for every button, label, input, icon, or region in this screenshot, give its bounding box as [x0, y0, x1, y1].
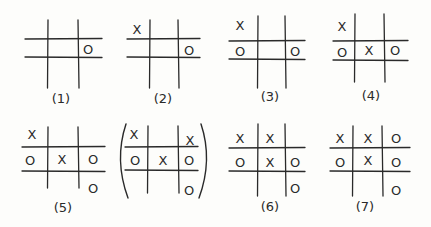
x-mark: X: [338, 19, 347, 34]
o-mark: O: [290, 44, 300, 59]
x-mark: X: [159, 153, 168, 168]
o-mark: O: [25, 153, 35, 168]
board-2: XO(2): [127, 20, 200, 106]
x-mark: X: [364, 131, 373, 146]
grid-line-vertical: [78, 127, 79, 188]
o-mark: O: [290, 181, 300, 196]
grid-line-vertical: [355, 14, 356, 82]
board-label: (2): [154, 91, 172, 106]
grid-line-vertical: [48, 127, 49, 188]
grid-line-horizontal: [333, 41, 408, 42]
grid-line-horizontal: [229, 148, 305, 149]
grid-line-vertical: [384, 14, 385, 82]
o-mark: O: [184, 153, 194, 168]
o-mark: O: [235, 155, 245, 170]
board-5: XOXOO(5): [22, 127, 105, 215]
grid-line-vertical: [258, 124, 259, 196]
x-mark: X: [28, 127, 37, 142]
grid-line-horizontal: [229, 59, 305, 60]
grid-line-vertical: [150, 20, 151, 88]
grid-line-vertical: [178, 126, 179, 193]
x-mark: X: [336, 131, 345, 146]
o-mark: O: [88, 152, 98, 167]
grid-line-horizontal: [229, 41, 305, 42]
grid-line-horizontal: [25, 57, 102, 58]
grid-line-vertical: [48, 20, 49, 88]
left-parenthesis: [120, 124, 128, 198]
grid-line-vertical: [78, 20, 79, 88]
x-mark: X: [364, 153, 373, 168]
grid-line-vertical: [148, 126, 149, 193]
board-label: (1): [52, 91, 70, 106]
x-mark: X: [266, 131, 275, 146]
grid-line-vertical: [258, 16, 259, 88]
board-1: O(1): [25, 20, 102, 106]
o-mark: O: [184, 43, 194, 58]
grid-line-horizontal: [333, 60, 408, 61]
o-mark: O: [184, 183, 194, 198]
board-label: (4): [362, 88, 380, 103]
o-mark: O: [337, 45, 347, 60]
grid-line-horizontal: [229, 171, 305, 172]
grid-line-vertical: [178, 20, 179, 88]
board-label: (5): [54, 200, 72, 215]
x-mark: X: [266, 155, 275, 170]
x-mark: X: [236, 131, 245, 146]
o-mark: O: [391, 155, 401, 170]
grid-line-horizontal: [125, 170, 198, 171]
grid-line-vertical: [353, 126, 354, 196]
o-mark: O: [88, 181, 98, 196]
right-parenthesis: [199, 124, 207, 198]
grid-line-vertical: [382, 126, 383, 196]
tic-tac-toe-diagram: O(1)XO(2)XOO(3)XOXO(4)XOXOO(5)XXOXOOXXOX…: [0, 0, 431, 227]
grid-line-horizontal: [330, 171, 410, 172]
o-mark: O: [391, 183, 401, 198]
board-label: (3): [261, 89, 279, 104]
board-6: XXOXOO(6): [229, 124, 305, 214]
o-mark: O: [391, 131, 401, 146]
o-mark: O: [390, 43, 400, 58]
o-mark: O: [83, 42, 93, 57]
grid-line-horizontal: [22, 171, 105, 172]
o-mark: O: [290, 155, 300, 170]
board-label: (6): [261, 199, 279, 214]
o-mark: O: [130, 153, 140, 168]
grid-line-vertical: [285, 16, 286, 88]
grid-line-horizontal: [330, 148, 410, 149]
o-mark: O: [235, 44, 245, 59]
x-mark: X: [365, 43, 374, 58]
board-4: XOXO(4): [333, 14, 408, 103]
grid-line-horizontal: [127, 39, 200, 40]
board-label: (7): [356, 199, 374, 214]
board-5b: XXOXOO: [120, 124, 206, 198]
grid-line-horizontal: [25, 39, 102, 40]
x-mark: X: [130, 127, 139, 142]
board-7: XXOOXOO(7): [330, 126, 410, 214]
board-3: XOO(3): [229, 16, 305, 104]
grid-line-horizontal: [22, 147, 105, 148]
x-mark: X: [133, 22, 142, 37]
o-mark: O: [335, 155, 345, 170]
grid-line-vertical: [285, 124, 286, 196]
x-mark: X: [186, 133, 195, 148]
x-mark: X: [58, 152, 67, 167]
x-mark: X: [236, 18, 245, 33]
